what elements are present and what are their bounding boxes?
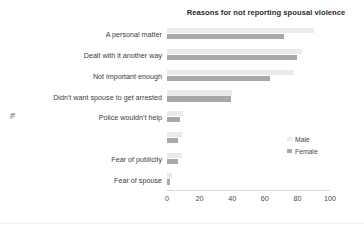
bar-group: Police wouldn't help [167, 107, 330, 128]
bar-male [167, 153, 182, 158]
category-label: Not important enough [93, 71, 162, 80]
bar-female [167, 76, 270, 81]
x-tick-label: 60 [261, 194, 269, 203]
category-label: A personal matter [106, 30, 162, 39]
x-tick-label: 40 [228, 194, 236, 203]
bar-female [167, 96, 231, 101]
bar-male [167, 90, 232, 95]
bar-male [167, 132, 182, 137]
bar-male [167, 173, 172, 178]
category-label: Didn't want spouse to get arrested [53, 92, 162, 101]
chart-figure: Reasons for not reporting spousal violen… [0, 0, 364, 225]
bar-group: Didn't want spouse to get arrested [167, 86, 330, 107]
category-label: Police wouldn't help [99, 113, 162, 122]
legend-label: Female [295, 148, 318, 155]
chart-title: Reasons for not reporting spousal violen… [168, 8, 364, 17]
bar-group: Fear of spouse [167, 169, 330, 190]
bar-female [167, 55, 297, 60]
bar-male [167, 28, 314, 33]
bar-female [167, 117, 180, 122]
bar-female [167, 159, 178, 164]
bar-female [167, 138, 178, 143]
footer-divider [0, 223, 364, 224]
legend-swatch-icon [287, 149, 292, 154]
legend-label: Male [295, 136, 310, 143]
x-tick-label: 100 [324, 194, 336, 203]
bar-group: Dealt with it another way [167, 45, 330, 66]
legend-item-female[interactable]: Female [287, 146, 351, 156]
y-axis-label: % [9, 113, 16, 119]
plot-area: A personal matterDealt with it another w… [167, 24, 330, 190]
bar-female [167, 34, 284, 39]
bar-male [167, 70, 294, 75]
legend-item-male[interactable]: Male [287, 134, 351, 144]
x-tick-label: 0 [165, 194, 169, 203]
category-label: Dealt with it another way [84, 51, 162, 60]
bar-group: A personal matter [167, 24, 330, 45]
legend-swatch-icon [287, 137, 292, 142]
category-label: Fear of publicity [111, 154, 162, 163]
x-axis: 020406080100 [167, 190, 330, 212]
chart-legend: MaleFemale [287, 134, 351, 158]
bar-group: Not important enough [167, 66, 330, 87]
bar-male [167, 49, 302, 54]
category-label: Fear of spouse [114, 175, 162, 184]
x-tick-label: 80 [293, 194, 301, 203]
x-axis-line [167, 190, 330, 191]
bar-male [167, 111, 183, 116]
x-tick-label: 20 [196, 194, 204, 203]
bar-female [167, 179, 170, 184]
